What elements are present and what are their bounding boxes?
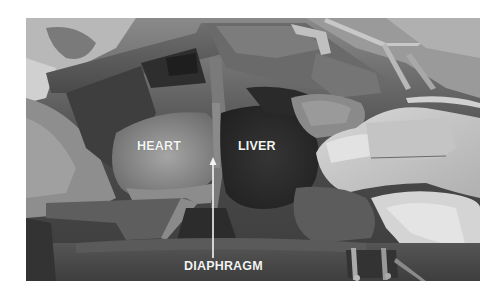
arrow-up-icon — [209, 157, 217, 258]
diaphragm-label: DIAPHRAGM — [184, 260, 263, 273]
liver-label: LIVER — [238, 140, 276, 153]
heart-label: HEART — [137, 140, 181, 153]
figure: HEART LIVER DIAPHRAGM — [0, 0, 501, 298]
